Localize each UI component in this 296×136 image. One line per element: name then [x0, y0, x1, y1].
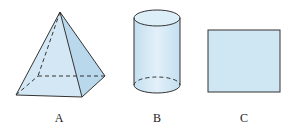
- figure-a-pyramid: [16, 12, 105, 97]
- figure-c-square: [208, 30, 280, 92]
- label-a: A: [55, 111, 64, 125]
- label-b: B: [153, 111, 161, 125]
- label-c: C: [240, 111, 248, 125]
- figure-b-cylinder: [134, 10, 180, 93]
- diagram-canvas: A B C: [0, 0, 296, 136]
